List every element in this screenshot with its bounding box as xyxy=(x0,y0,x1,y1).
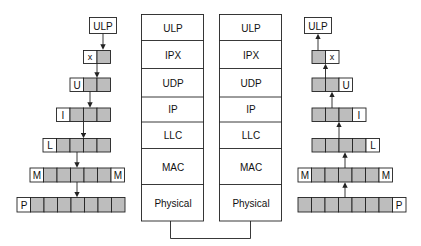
left-l-header: L xyxy=(43,138,57,152)
left-p-header: P xyxy=(17,198,31,212)
diagram-canvas xyxy=(0,0,421,246)
left-u-header: U xyxy=(70,78,84,92)
right-stack-mac: MAC xyxy=(220,149,282,185)
right-stack-ulp: ULP xyxy=(220,15,282,41)
right-l-header: L xyxy=(366,138,380,152)
left-stack-llc: LLC xyxy=(142,122,204,149)
left-stack-ip: IP xyxy=(142,97,204,122)
right-ulp-label: ULP xyxy=(304,18,332,34)
right-stack-ipx: IPX xyxy=(220,41,282,69)
left-stack-mac: MAC xyxy=(142,149,204,185)
left-stack-ulp: ULP xyxy=(142,15,204,41)
right-stack-llc: LLC xyxy=(220,122,282,149)
right-stack-physical: Physical xyxy=(220,185,282,221)
left-stack-ipx: IPX xyxy=(142,41,204,69)
right-p-header: P xyxy=(392,198,406,212)
left-m-header: M xyxy=(30,168,44,182)
physical-link xyxy=(171,221,251,239)
right-m-header: M xyxy=(298,168,312,182)
right-stack-udp: UDP xyxy=(220,69,282,97)
left-x-header: x xyxy=(83,50,97,64)
left-encapsulation xyxy=(17,18,125,213)
right-stack-ip: IP xyxy=(220,97,282,122)
left-stack-udp: UDP xyxy=(142,69,204,97)
left-stack-physical: Physical xyxy=(142,185,204,221)
right-i-header: I xyxy=(352,108,366,122)
right-x-header: x xyxy=(325,50,339,64)
right-m-trailer: M xyxy=(379,168,393,182)
left-ulp-label: ULP xyxy=(89,18,117,34)
left-i-header: I xyxy=(56,108,70,122)
right-u-header: U xyxy=(339,78,353,92)
left-m-trailer: M xyxy=(111,168,125,182)
